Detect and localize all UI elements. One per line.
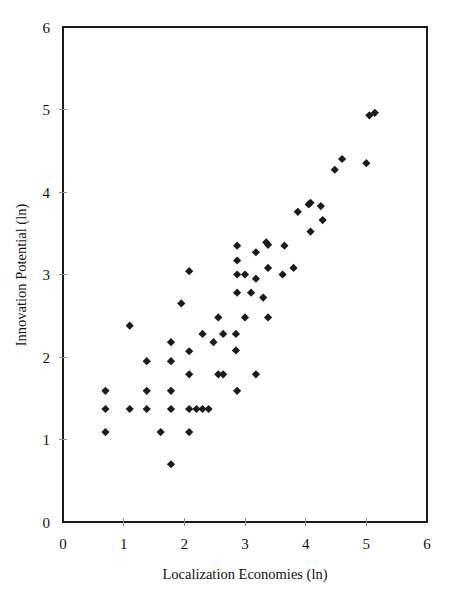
- x-axis-tick-labels: 0123456: [59, 536, 431, 552]
- x-axis-title: Localization Economies (ln): [162, 566, 327, 583]
- x-tick-label: 4: [302, 536, 310, 552]
- y-tick-label: 2: [43, 350, 51, 366]
- x-tick-label: 1: [120, 536, 128, 552]
- scatter-plot-figure: 0123456 0123456 Localization Economies (…: [0, 0, 455, 605]
- chart-canvas: 0123456 0123456 Localization Economies (…: [0, 0, 455, 605]
- x-tick-label: 6: [423, 536, 431, 552]
- y-axis-title: Innovation Potential (ln): [13, 204, 30, 347]
- y-axis-tick-labels: 0123456: [43, 20, 51, 531]
- x-tick-label: 3: [241, 536, 249, 552]
- y-tick-label: 6: [43, 20, 51, 36]
- x-tick-label: 5: [363, 536, 371, 552]
- x-tick-label: 0: [59, 536, 67, 552]
- y-tick-label: 0: [43, 515, 51, 531]
- x-tick-label: 2: [181, 536, 189, 552]
- y-tick-label: 1: [43, 432, 51, 448]
- y-tick-label: 5: [43, 102, 51, 118]
- y-tick-label: 4: [43, 185, 51, 201]
- y-tick-label: 3: [43, 267, 51, 283]
